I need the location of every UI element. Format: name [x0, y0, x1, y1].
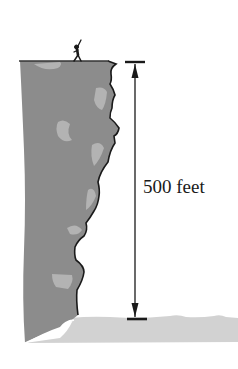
arrowhead-up [132, 64, 139, 78]
height-label: 500 feet [143, 177, 205, 196]
arrowhead-down [132, 303, 139, 317]
person-figure [74, 40, 81, 61]
